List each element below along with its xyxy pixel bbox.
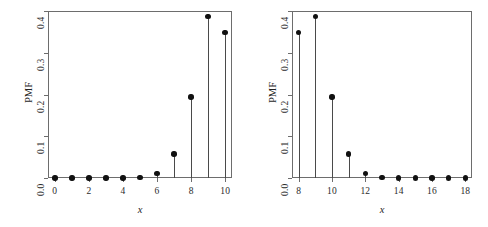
data-point [137, 175, 142, 180]
data-point [86, 175, 91, 180]
data-point [205, 14, 210, 19]
stem-line [208, 16, 209, 178]
figure-two-panel-pmf: PMF x 0.00.10.20.30.40246810 PMF x 0.00.… [0, 0, 488, 227]
data-point [103, 175, 108, 180]
plot-frame-right [292, 11, 472, 178]
y-tick-label: 0.4 [37, 11, 47, 35]
y-axis-title-right: PMF [267, 72, 278, 112]
y-tick-label: 0.3 [281, 53, 291, 77]
data-point [154, 171, 159, 176]
data-point [188, 94, 193, 99]
data-point [396, 175, 401, 180]
y-tick-label: 0.4 [281, 11, 291, 35]
x-tick-label: 14 [394, 187, 404, 197]
data-point [363, 171, 368, 176]
data-point [171, 151, 176, 156]
x-tick-label: 10 [327, 187, 337, 197]
data-point [379, 175, 384, 180]
data-point [463, 175, 468, 180]
y-tick-label: 0.3 [37, 53, 47, 77]
stem-line [315, 16, 316, 178]
x-tick-label: 18 [460, 187, 470, 197]
x-tick-label: 10 [220, 187, 230, 197]
x-tick-label: 16 [427, 187, 437, 197]
data-point [52, 175, 57, 180]
y-tick-label: 0.2 [281, 94, 291, 118]
x-tick-panel-right [365, 178, 366, 182]
x-axis-title-right: x [380, 204, 385, 215]
y-tick-label: 0.0 [281, 178, 291, 202]
y-axis-title-left: PMF [23, 72, 34, 112]
x-tick-panel-left [191, 178, 192, 182]
x-tick-label: 6 [155, 187, 160, 197]
stem-line [332, 97, 333, 178]
stem-line [299, 32, 300, 178]
stem-line [349, 154, 350, 178]
stem-line [191, 97, 192, 178]
x-tick-panel-left [157, 178, 158, 182]
data-point [429, 175, 434, 180]
panel-left: PMF x 0.00.10.20.30.40246810 [0, 0, 244, 227]
data-point [329, 94, 334, 99]
data-point [69, 175, 74, 180]
data-point [120, 175, 125, 180]
x-tick-label: 0 [52, 187, 57, 197]
x-tick-panel-left [225, 178, 226, 182]
x-axis-title-left: x [138, 204, 143, 215]
stem-line [225, 32, 226, 178]
data-point [413, 175, 418, 180]
x-tick-panel-right [299, 178, 300, 182]
stem-line [174, 154, 175, 178]
y-tick-label: 0.1 [37, 136, 47, 160]
y-tick-label: 0.1 [281, 136, 291, 160]
x-tick-label: 2 [86, 187, 91, 197]
panel-right: PMF x 0.00.10.20.30.481012141618 [244, 0, 488, 227]
y-tick-label: 0.0 [37, 178, 47, 202]
x-tick-label: 4 [120, 187, 125, 197]
data-point [446, 175, 451, 180]
data-point [346, 151, 351, 156]
x-tick-label: 8 [296, 187, 301, 197]
x-tick-label: 8 [189, 187, 194, 197]
data-point [313, 14, 318, 19]
data-point [222, 30, 227, 35]
y-tick-label: 0.2 [37, 94, 47, 118]
x-tick-panel-right [332, 178, 333, 182]
plot-frame-left [48, 11, 232, 178]
x-tick-label: 12 [360, 187, 370, 197]
